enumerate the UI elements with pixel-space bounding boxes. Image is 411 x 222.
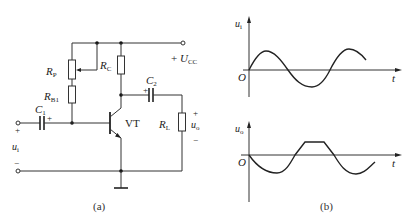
rc-resistor xyxy=(118,56,125,74)
rb1-label: RB1 xyxy=(43,90,59,104)
rp-resistor xyxy=(69,60,76,79)
circuit-figure: RP RB1 RC RL C1 C2 + + VT + UCC + ui − +… xyxy=(0,0,411,222)
top-origin: O xyxy=(238,71,246,83)
rb1-resistor xyxy=(69,86,76,103)
input-plus: + xyxy=(15,125,20,135)
rl-resistor xyxy=(179,113,186,131)
caption-a: (a) xyxy=(93,200,106,213)
bottom-origin: O xyxy=(238,156,246,168)
c1-plus: + xyxy=(47,113,52,123)
waveform-bottom: uo O t (b) xyxy=(235,121,402,213)
output-minus: − xyxy=(193,135,198,145)
vcc-label: + UCC xyxy=(171,52,198,66)
output-plus: + xyxy=(193,108,198,118)
vcc-terminal xyxy=(181,41,185,45)
bottom-ylabel: uo xyxy=(235,123,244,136)
input-terminal-minus xyxy=(16,169,20,173)
caption-b: (b) xyxy=(320,200,333,213)
rp-label: RP xyxy=(45,65,57,79)
x-axis-arrow-icon xyxy=(395,68,402,72)
wiper-arrow-icon xyxy=(76,68,81,72)
input-sine-wave xyxy=(249,49,366,87)
circuit-diagram: RP RB1 RC RL C1 C2 + + VT + UCC + ui − +… xyxy=(12,41,200,213)
vt-collector xyxy=(110,108,121,117)
c2-plus: + xyxy=(143,85,148,95)
input-label: ui xyxy=(12,141,19,154)
rc-label: RC xyxy=(99,59,112,73)
x-axis-arrow-icon xyxy=(395,153,402,157)
y-axis-arrow-icon xyxy=(247,121,251,128)
y-axis-arrow-icon xyxy=(247,16,251,23)
waveform-top: ui O t xyxy=(235,16,402,97)
output-clipped-wave xyxy=(249,142,375,174)
bottom-xlabel: t xyxy=(392,157,396,169)
output-label: uo xyxy=(191,119,200,132)
top-xlabel: t xyxy=(392,72,396,84)
vt-label: VT xyxy=(125,117,140,129)
c1-label: C1 xyxy=(35,103,46,117)
rl-label: RL xyxy=(158,118,170,132)
input-minus: − xyxy=(14,158,19,168)
top-ylabel: ui xyxy=(235,18,242,31)
